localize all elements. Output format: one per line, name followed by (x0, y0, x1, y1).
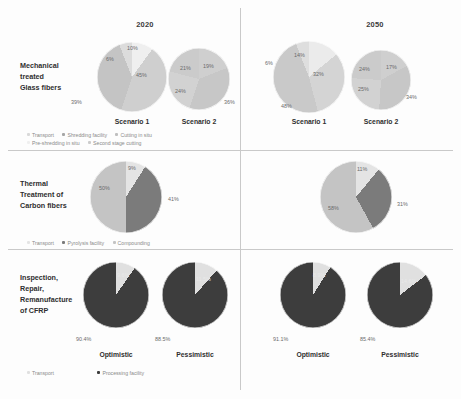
legend-cfrp: Transport Processing facility (27, 369, 151, 376)
pie-glass-2020-s1 (97, 42, 167, 112)
pct-label: 9% (128, 165, 136, 171)
pct-label: 17% (386, 64, 397, 70)
legend-item: Processing facility (97, 369, 144, 376)
pie-caption-cfrp-2050-optimistic: Optimistic (278, 351, 348, 358)
pct-label: 39% (71, 99, 82, 105)
legend-swatch-icon (62, 133, 65, 136)
pct-label: 91.1% (273, 336, 288, 342)
pct-label: 10% (127, 45, 138, 51)
pie-cfrp-2020-optimistic (83, 262, 149, 328)
pct-label: 48% (281, 103, 292, 109)
pie-caption-glass-2020-s1: Scenario 1 (97, 118, 167, 125)
pie-caption-glass-2050-s1: Scenario 1 (274, 118, 344, 125)
row-divider-1 (8, 150, 453, 151)
legend-swatch-icon (27, 371, 30, 374)
legend-glass-line2: Pre-shredding in situ Second stage cutti… (27, 139, 148, 146)
legend-swatch-icon (27, 133, 30, 136)
pct-label: 36% (224, 99, 235, 105)
legend-swatch-icon (27, 141, 30, 144)
legend-swatch-icon (115, 133, 118, 136)
column-header-2020: 2020 (100, 20, 190, 29)
legend-item: Shredding facility (62, 131, 107, 138)
column-divider (240, 8, 241, 390)
pct-label: 90.4% (76, 336, 91, 342)
row-label-cfrp: Inspection, Repair, Remanufacture of CFR… (20, 272, 90, 316)
pct-label: 41% (168, 196, 179, 202)
pie-caption-cfrp-2020-pessimistic: Pessimistic (160, 351, 230, 358)
legend-item: Transport (27, 239, 54, 246)
pie-caption-cfrp-2050-pessimistic: Pessimistic (365, 351, 435, 358)
legend-glass-line1: Transport Shredding facility Cutting in … (27, 131, 159, 138)
column-header-2050: 2050 (330, 20, 420, 29)
pct-label: 8.9% (313, 272, 325, 278)
legend-swatch-icon (97, 371, 100, 374)
pct-label: 11% (357, 166, 367, 172)
legend-thermal: Transport Pyrolysis facility Compounding (27, 239, 157, 246)
legend-item: Transport (27, 369, 54, 376)
legend-swatch-icon (62, 241, 65, 244)
legend-swatch-icon (27, 241, 30, 244)
pct-label: 14.6% (401, 278, 416, 284)
pct-label: 85.4% (360, 336, 375, 342)
legend-swatch-icon (113, 241, 116, 244)
pie-thermal-2050 (320, 161, 392, 233)
pie-glass-2050-s2 (351, 50, 411, 110)
legend-item: Compounding (113, 239, 150, 246)
row-label-carbon-fibers: Thermal Treatment of Carbon fibers (20, 178, 90, 211)
pct-label: 31% (397, 201, 408, 207)
pie-caption-glass-2050-s2: Scenario 2 (346, 118, 416, 125)
pct-label: 58% (328, 205, 339, 211)
pct-label: 21% (180, 65, 191, 71)
pct-label: 6% (265, 60, 273, 66)
pct-label: 24% (359, 66, 370, 72)
pie-glass-2020-s2 (168, 48, 230, 110)
legend-item: Cutting in situ (115, 131, 151, 138)
legend-item: Transport (27, 131, 54, 138)
pct-label: 34% (406, 94, 417, 100)
legend-swatch-icon (88, 141, 91, 144)
pct-label: 11.5% (196, 276, 211, 282)
pct-label: 88.5% (155, 336, 170, 342)
row-divider-2 (8, 249, 453, 250)
pct-label: 19% (203, 63, 214, 69)
pct-label: 32% (313, 71, 324, 77)
pie-thermal-2020 (90, 161, 162, 233)
figure-canvas: 2020 2050 Mechanical treated Glass fiber… (0, 0, 461, 399)
pct-label: 14% (294, 52, 305, 58)
pie-cfrp-2020-pessimistic (162, 262, 228, 328)
pie-caption-glass-2020-s2: Scenario 2 (164, 118, 234, 125)
pct-label: 24% (175, 88, 186, 94)
pct-label: 50% (99, 185, 110, 191)
legend-item: Pyrolysis facility (62, 239, 104, 246)
pct-label: 6% (106, 56, 114, 62)
pct-label: 25% (358, 86, 369, 92)
legend-item: Second stage cutting (88, 139, 141, 146)
row-label-glass-fibers: Mechanical treated Glass fibers (20, 60, 90, 93)
pie-caption-cfrp-2020-optimistic: Optimistic (81, 351, 151, 358)
pct-label: 9.6% (117, 272, 129, 278)
pie-cfrp-2050-pessimistic (367, 262, 433, 328)
legend-item: Pre-shredding in situ (27, 139, 80, 146)
pct-label: 45% (136, 72, 147, 78)
